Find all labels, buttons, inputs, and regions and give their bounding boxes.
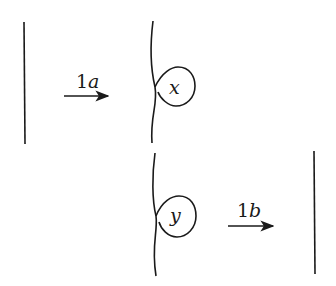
loop-strand-y: y bbox=[153, 153, 196, 276]
arrow-1a: 1 a bbox=[64, 70, 108, 96]
straight-strand-top-left bbox=[24, 22, 25, 144]
arrow-1a-letter: a bbox=[88, 70, 99, 92]
straight-strand-bottom-right bbox=[314, 151, 315, 274]
arrow-1b-letter: b bbox=[249, 199, 261, 221]
loop-label-x: x bbox=[169, 76, 180, 98]
reidemeister-diagram: 1 a x y 1 b bbox=[0, 0, 336, 286]
arrow-1b-number: 1 bbox=[237, 199, 249, 221]
arrow-1a-number: 1 bbox=[76, 70, 88, 92]
loop-strand-x: x bbox=[151, 21, 195, 143]
arrow-1b: 1 b bbox=[228, 199, 273, 226]
loop-label-y: y bbox=[169, 204, 181, 226]
